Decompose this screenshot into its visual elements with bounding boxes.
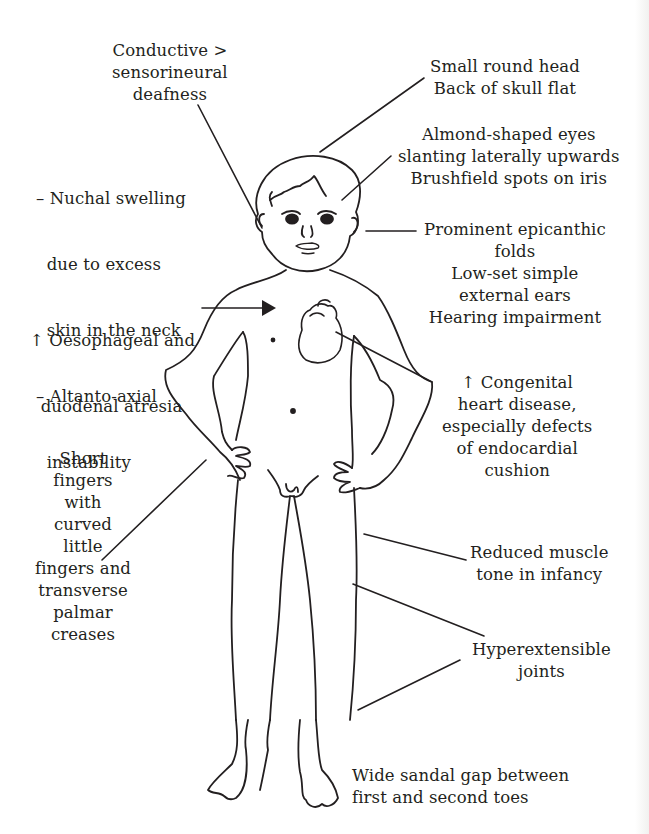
leader-sandal-gap bbox=[358, 660, 460, 710]
label-eyes: Almond-shaped eyes slanting laterally up… bbox=[398, 124, 620, 190]
label-line: ↑ Congenital bbox=[442, 372, 592, 394]
label-line: Almond-shaped eyes bbox=[398, 124, 620, 146]
label-line: Hyperextensible bbox=[472, 639, 611, 661]
leader-muscle bbox=[364, 534, 466, 560]
label-line: fingers bbox=[30, 470, 136, 492]
label-line: of endocardial bbox=[442, 438, 592, 460]
label-short-fingers: Short fingers with curved little fingers… bbox=[30, 448, 136, 646]
label-line: sensorineural bbox=[112, 62, 228, 84]
label-line: Reduced muscle bbox=[470, 542, 609, 564]
label-line: transverse bbox=[30, 580, 136, 602]
label-line: ↑ Oesophageal and bbox=[30, 330, 195, 352]
label-line: Back of skull flat bbox=[430, 78, 580, 100]
label-line: tone in infancy bbox=[470, 564, 609, 586]
leader-joints bbox=[353, 584, 484, 636]
label-line: little bbox=[30, 536, 136, 558]
label-line: fingers and bbox=[30, 558, 136, 580]
label-line: – Nuchal swelling bbox=[36, 188, 186, 210]
label-line: Short bbox=[30, 448, 136, 470]
label-conductive-deafness: Conductive > sensorineural deafness bbox=[112, 40, 228, 106]
label-line: external ears bbox=[424, 285, 606, 307]
label-line: Small round head bbox=[430, 56, 580, 78]
label-line: Low-set simple bbox=[424, 263, 606, 285]
label-oesophageal-atresia: ↑ Oesophageal and duodenal atresia bbox=[30, 286, 195, 440]
label-hyperextensible-joints: Hyperextensible joints bbox=[472, 639, 611, 683]
leader-conductive-deafness bbox=[198, 105, 262, 228]
label-line: Wide sandal gap between bbox=[352, 765, 569, 787]
label-line: creases bbox=[30, 624, 136, 646]
label-line: slanting laterally upwards bbox=[398, 146, 620, 168]
label-sandal-gap: Wide sandal gap between first and second… bbox=[352, 765, 569, 809]
label-line: first and second toes bbox=[352, 787, 569, 809]
label-line: Conductive > bbox=[112, 40, 228, 62]
label-line: with bbox=[30, 492, 136, 514]
label-congenital-heart-disease: ↑ Congenital heart disease, especially d… bbox=[442, 372, 592, 482]
label-line: folds bbox=[424, 241, 606, 263]
label-line: joints bbox=[472, 661, 611, 683]
label-small-head: Small round head Back of skull flat bbox=[430, 56, 580, 100]
label-line: palmar bbox=[30, 602, 136, 624]
head-outline bbox=[256, 156, 360, 271]
label-epicanthic-folds: Prominent epicanthic folds Low-set simpl… bbox=[424, 219, 606, 329]
label-line: Prominent epicanthic bbox=[424, 219, 606, 241]
label-line: Brushfield spots on iris bbox=[398, 168, 620, 190]
label-line: cushion bbox=[442, 460, 592, 482]
leader-eyes bbox=[342, 156, 391, 200]
label-line: due to excess bbox=[36, 254, 186, 276]
label-reduced-muscle-tone: Reduced muscle tone in infancy bbox=[470, 542, 609, 586]
label-line: Hearing impairment bbox=[424, 307, 606, 329]
label-line: curved bbox=[30, 514, 136, 536]
label-line: especially defects bbox=[442, 416, 592, 438]
label-line: deafness bbox=[112, 84, 228, 106]
arrowhead bbox=[262, 300, 276, 316]
label-line: duodenal atresia bbox=[30, 396, 195, 418]
label-line: heart disease, bbox=[442, 394, 592, 416]
